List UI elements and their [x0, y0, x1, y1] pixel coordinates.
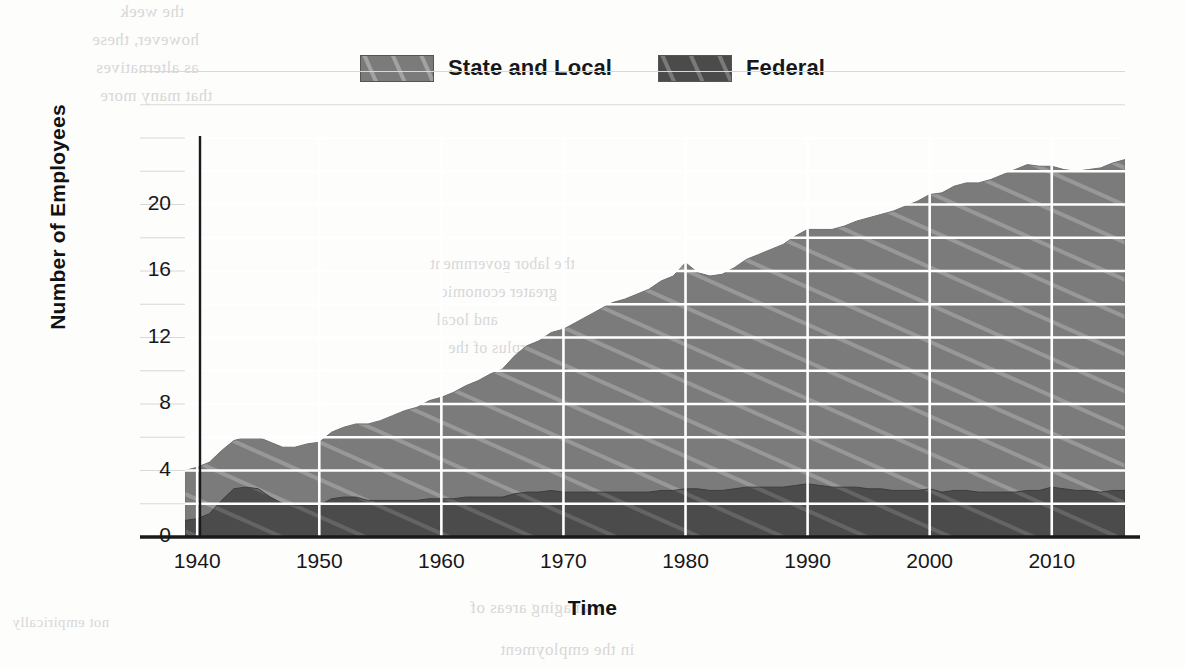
- x-tick-label: 1980: [646, 549, 726, 573]
- x-tick-label: 1950: [279, 549, 359, 573]
- y-tick-label: 4: [119, 457, 171, 481]
- x-tick-label: 1960: [401, 549, 481, 573]
- y-tick-label: 20: [119, 191, 171, 215]
- x-tick-label: 2010: [1012, 549, 1092, 573]
- x-tick-label: 1990: [768, 549, 848, 573]
- y-tick-label: 8: [119, 390, 171, 414]
- y-tick-label: 12: [119, 324, 171, 348]
- stacked-area-chart: Number of Employees Time 048121620 19401…: [0, 0, 1185, 669]
- y-tick-label: 0: [119, 523, 171, 547]
- y-tick-label: 16: [119, 257, 171, 281]
- y-axis-title: Number of Employees: [46, 97, 70, 337]
- x-tick-label: 2000: [890, 549, 970, 573]
- area-series-state-and-local: [185, 160, 1125, 537]
- x-tick-label: 1970: [523, 549, 603, 573]
- x-tick-label: 1940: [157, 549, 237, 573]
- x-axis-title: Time: [0, 596, 1185, 620]
